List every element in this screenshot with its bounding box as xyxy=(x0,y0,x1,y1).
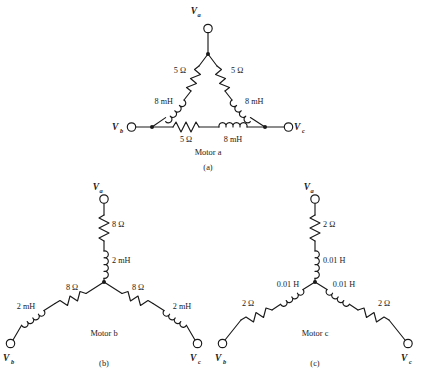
label-c-l-right: 0.01 H xyxy=(333,280,355,289)
label-a-vb-sub: b xyxy=(120,127,123,134)
circuit-b-group: V a V b V c 8 Ω 2 mH 8 Ω 2 mH 8 Ω 2 mH M… xyxy=(3,182,202,368)
label-b-r-right: 8 Ω xyxy=(132,283,144,292)
label-a-vc: V xyxy=(294,122,301,132)
a-wire-right-2 xyxy=(225,91,232,100)
b-wire-b-2 xyxy=(44,304,55,311)
c-resistor-c xyxy=(358,308,389,322)
c-wire-b-1 xyxy=(303,282,315,290)
label-c-motor: Motor c xyxy=(302,329,329,338)
circuit-c-group: V a V b V c 2 Ω 0.01 H 0.01 H 2 Ω 0.01 H… xyxy=(215,182,412,368)
label-b-vc: V xyxy=(190,353,197,363)
label-c-r-left: 2 Ω xyxy=(242,299,254,308)
label-c-vc: V xyxy=(401,353,408,363)
c-resistor-b xyxy=(241,308,272,322)
b-wire-b-1 xyxy=(86,282,104,294)
b-wire-c-1 xyxy=(104,282,122,294)
circuit-diagram-svg: V a V b V c 5 Ω 5 Ω 8 mH 8 mH 5 Ω 8 mH M… xyxy=(0,0,425,381)
label-a-r-right: 5 Ω xyxy=(231,66,243,75)
b-inductor-a xyxy=(104,251,108,278)
circuit-a-group: V a V b V c 5 Ω 5 Ω 8 mH 8 mH 5 Ω 8 mH M… xyxy=(112,6,305,172)
b-resistor-a xyxy=(99,215,109,241)
c-wire-b-3 xyxy=(225,320,241,340)
terminal-a-vc[interactable] xyxy=(284,123,292,131)
label-c-r-top: 2 Ω xyxy=(323,220,335,229)
label-a-l-right: 8 mH xyxy=(245,97,264,106)
c-wire-c-2 xyxy=(349,304,358,310)
c-inductor-a xyxy=(315,251,319,278)
terminal-b-vc[interactable] xyxy=(193,339,201,347)
label-a-vb: V xyxy=(112,122,119,132)
label-a-vc-sub: c xyxy=(302,127,305,134)
label-b-motor: Motor b xyxy=(90,329,117,338)
label-b-vc-sub: c xyxy=(198,358,201,365)
label-a-r-bottom: 5 Ω xyxy=(180,135,192,144)
a-resistor-right xyxy=(216,66,230,91)
label-c-va-sub: a xyxy=(311,187,315,194)
a-inductor-bottom xyxy=(219,123,247,127)
b-inductor-b xyxy=(22,311,45,328)
b-wire-b-3 xyxy=(13,325,22,340)
label-c-r-right: 2 Ω xyxy=(378,299,390,308)
label-b-l-top: 2 mH xyxy=(112,256,131,265)
label-b-vb: V xyxy=(3,353,10,363)
label-b-va-sub: a xyxy=(100,187,104,194)
label-c-vc-sub: c xyxy=(409,358,412,365)
label-c-part: (c) xyxy=(310,359,320,368)
terminal-c-vc[interactable] xyxy=(404,339,412,347)
a-wire-right-3 xyxy=(250,118,265,127)
terminal-a-va[interactable] xyxy=(204,24,212,32)
label-c-vb-sub: b xyxy=(223,358,226,365)
b-inductor-c xyxy=(163,311,186,328)
c-inductor-b xyxy=(281,290,304,307)
label-c-l-top: 0.01 H xyxy=(323,256,345,265)
label-b-r-left: 8 Ω xyxy=(66,283,78,292)
label-b-l-left: 2 mH xyxy=(17,302,36,311)
a-wire-left-3 xyxy=(152,118,166,127)
c-wire-c-1 xyxy=(315,282,327,290)
label-a-va-sub: a xyxy=(198,11,202,18)
b-resistor-b xyxy=(55,292,86,306)
c-resistor-a xyxy=(310,215,320,241)
c-wire-c-3 xyxy=(389,320,405,340)
label-c-vb: V xyxy=(215,353,222,363)
label-b-l-right: 2 mH xyxy=(173,302,192,311)
a-wire-right-1 xyxy=(208,54,217,66)
c-wire-b-2 xyxy=(272,304,281,310)
label-b-part: (b) xyxy=(99,359,109,368)
terminal-c-vb[interactable] xyxy=(218,339,226,347)
a-wire-left-2 xyxy=(184,91,191,100)
a-resistor-bottom xyxy=(173,122,199,132)
a-wire-left-1 xyxy=(199,54,208,66)
label-c-l-left: 0.01 H xyxy=(277,280,299,289)
label-b-r-top: 8 Ω xyxy=(112,220,124,229)
label-a-motor: Motor a xyxy=(195,148,222,157)
b-wire-c-2 xyxy=(153,304,164,311)
c-inductor-c xyxy=(326,290,349,307)
a-resistor-left xyxy=(187,66,201,91)
figure-root: V a V b V c 5 Ω 5 Ω 8 mH 8 mH 5 Ω 8 mH M… xyxy=(0,0,425,381)
terminal-b-va[interactable] xyxy=(100,195,108,203)
label-a-l-bottom: 8 mH xyxy=(224,135,243,144)
terminal-a-vb[interactable] xyxy=(127,123,135,131)
b-resistor-c xyxy=(122,292,153,306)
terminal-b-vb[interactable] xyxy=(6,339,14,347)
b-wire-c-3 xyxy=(186,325,195,340)
label-a-r-left: 5 Ω xyxy=(174,66,186,75)
label-a-part: (a) xyxy=(203,163,213,172)
label-b-vb-sub: b xyxy=(11,358,14,365)
terminal-c-va[interactable] xyxy=(311,195,319,203)
label-a-l-left: 8 mH xyxy=(155,97,174,106)
